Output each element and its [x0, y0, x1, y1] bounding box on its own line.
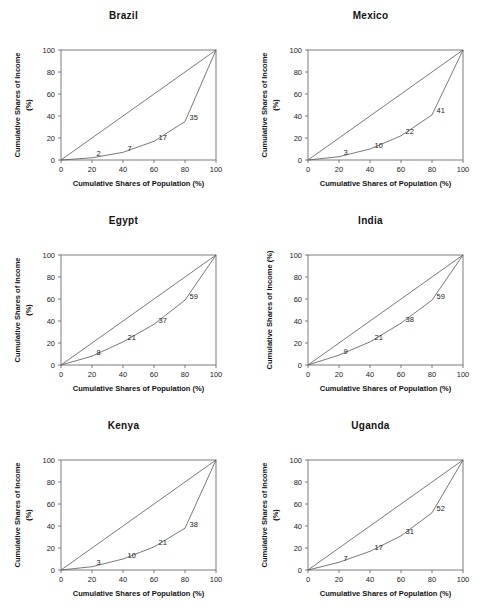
data-point-label: 59: [190, 292, 198, 301]
y-tick-label: 60: [47, 90, 55, 99]
data-point-label: 17: [375, 543, 383, 552]
y-axis-title-line1: Cumulative Shares of Income: [13, 462, 22, 567]
y-tick-label: 100: [289, 456, 302, 465]
x-tick-label: 60: [397, 165, 405, 174]
x-axis-title: Cumulative Shares of Population (%): [320, 179, 452, 188]
x-tick-label: 80: [181, 370, 189, 379]
chart-panel-india: India0204060801000204060801009213859Cumu…: [247, 205, 494, 410]
y-axis-title: Cumulative Shares of Income (%): [265, 250, 274, 369]
y-tick-label: 0: [298, 361, 302, 370]
chart-panel-egypt: Egypt0204060801000204060801008213759Cumu…: [0, 205, 247, 410]
y-tick-label: 60: [294, 500, 302, 509]
chart-panel-mexico: Mexico0204060801000204060801003102241Cum…: [247, 0, 494, 205]
chart-panel-kenya: Kenya0204060801000204060801003102138Cumu…: [0, 410, 247, 614]
x-tick-label: 80: [181, 575, 189, 584]
y-tick-label: 60: [47, 500, 55, 509]
data-point-label: 41: [437, 106, 445, 115]
y-tick-label: 100: [289, 251, 302, 260]
x-axis-title: Cumulative Shares of Population (%): [73, 384, 205, 393]
x-tick-label: 40: [119, 165, 127, 174]
x-tick-label: 100: [210, 165, 223, 174]
data-point-label: 38: [406, 315, 414, 324]
y-tick-label: 100: [42, 456, 55, 465]
y-tick-label: 20: [47, 339, 55, 348]
equality-line: [308, 50, 463, 160]
y-axis-title-line1: Cumulative Shares of Income: [13, 52, 22, 157]
y-tick-label: 40: [294, 522, 302, 531]
data-point-label: 35: [190, 113, 198, 122]
y-axis-title-line1: Cumulative Shares of Income: [13, 257, 22, 362]
equality-line: [61, 460, 216, 570]
y-axis-title-line2: (%): [24, 99, 33, 111]
x-tick-label: 80: [428, 370, 436, 379]
y-axis-title-line2: (%): [24, 509, 33, 521]
y-axis-title-line2: (%): [271, 509, 280, 521]
data-point-label: 52: [437, 504, 445, 513]
chart-panel-brazil: Brazil020406080100020406080100271735Cumu…: [0, 0, 247, 205]
x-tick-label: 100: [457, 575, 470, 584]
data-point-label: 59: [437, 292, 445, 301]
x-tick-label: 60: [397, 575, 405, 584]
y-tick-label: 80: [294, 478, 302, 487]
x-tick-label: 20: [88, 370, 96, 379]
x-tick-label: 20: [88, 575, 96, 584]
x-tick-label: 100: [210, 370, 223, 379]
y-tick-label: 80: [47, 273, 55, 282]
y-tick-label: 40: [47, 522, 55, 531]
y-tick-label: 0: [298, 566, 302, 575]
y-tick-label: 80: [47, 478, 55, 487]
equality-line: [308, 460, 463, 570]
y-tick-label: 40: [47, 317, 55, 326]
x-tick-label: 60: [150, 370, 158, 379]
data-point-label: 3: [97, 558, 101, 567]
x-tick-label: 20: [335, 165, 343, 174]
y-tick-label: 0: [298, 156, 302, 165]
x-tick-label: 80: [181, 165, 189, 174]
y-axis-title-line1: Cumulative Shares of Income: [260, 52, 269, 157]
y-tick-label: 100: [42, 251, 55, 260]
x-tick-label: 0: [306, 370, 310, 379]
data-point-label: 8: [97, 348, 101, 357]
x-tick-label: 40: [119, 575, 127, 584]
y-tick-label: 0: [51, 156, 55, 165]
x-tick-label: 60: [150, 165, 158, 174]
y-tick-label: 20: [294, 544, 302, 553]
y-tick-label: 20: [294, 134, 302, 143]
data-point-label: 17: [159, 133, 167, 142]
x-tick-label: 20: [335, 575, 343, 584]
x-tick-label: 20: [335, 370, 343, 379]
chart-grid: Brazil020406080100020406080100271735Cumu…: [0, 0, 494, 614]
equality-line: [61, 255, 216, 365]
y-tick-label: 60: [294, 90, 302, 99]
figure-footnote: [0, 601, 494, 614]
y-tick-label: 100: [42, 46, 55, 55]
x-tick-label: 60: [397, 370, 405, 379]
x-tick-label: 40: [366, 575, 374, 584]
data-point-label: 21: [375, 333, 383, 342]
y-axis-title-line2: (%): [271, 99, 280, 111]
y-tick-label: 80: [294, 273, 302, 282]
lorenz-plot: 0204060801000204060801009213859Cumulativ…: [247, 205, 494, 410]
y-tick-label: 60: [47, 295, 55, 304]
y-tick-label: 40: [294, 112, 302, 121]
data-point-label: 21: [128, 333, 136, 342]
data-point-label: 37: [159, 316, 167, 325]
x-tick-label: 0: [306, 165, 310, 174]
y-tick-label: 100: [289, 46, 302, 55]
y-tick-label: 20: [47, 544, 55, 553]
y-axis-title-line1: Cumulative Shares of Income: [260, 462, 269, 567]
lorenz-plot: 0204060801000204060801003102241Cumulativ…: [247, 0, 494, 205]
data-point-label: 2: [97, 149, 101, 158]
x-tick-label: 40: [119, 370, 127, 379]
data-point-label: 21: [159, 538, 167, 547]
y-axis-title-line2: (%): [24, 304, 33, 316]
x-tick-label: 0: [59, 165, 63, 174]
x-tick-label: 100: [210, 575, 223, 584]
x-axis-title: Cumulative Shares of Population (%): [320, 384, 452, 393]
data-point-label: 9: [344, 347, 348, 356]
data-point-label: 22: [406, 127, 414, 136]
data-point-label: 31: [406, 527, 414, 536]
y-tick-label: 0: [51, 361, 55, 370]
y-tick-label: 20: [47, 134, 55, 143]
x-tick-label: 100: [457, 165, 470, 174]
